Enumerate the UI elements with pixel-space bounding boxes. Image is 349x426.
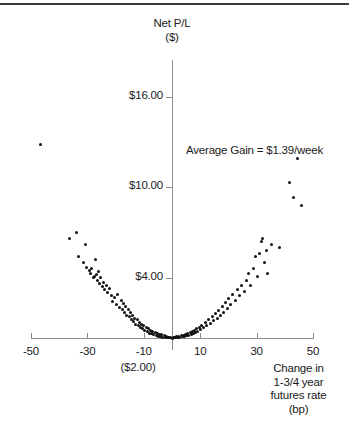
y-tick-label: $16.00 [99, 89, 163, 101]
data-point [116, 293, 119, 296]
data-point [105, 284, 108, 287]
data-point [214, 312, 217, 315]
data-point [211, 315, 214, 318]
data-point [240, 284, 243, 287]
data-point [296, 157, 299, 160]
data-point [84, 243, 87, 246]
data-point [39, 143, 42, 146]
data-point [209, 322, 212, 325]
y-axis-line [172, 60, 173, 350]
data-point [270, 243, 273, 246]
data-point [222, 311, 225, 314]
x-axis-title-line3: futures rate [248, 389, 349, 403]
data-point [238, 294, 241, 297]
data-point [252, 267, 255, 270]
data-point [263, 261, 266, 264]
x-tick-mark [257, 333, 258, 339]
x-tick-label: 50 [293, 345, 333, 357]
data-point [108, 287, 111, 290]
average-gain-annotation: Average Gain = $1.39/week [186, 144, 323, 156]
data-point [94, 258, 97, 261]
x-tick-mark [200, 333, 201, 339]
data-point [111, 300, 114, 303]
data-point [113, 296, 116, 299]
x-axis-title-line1: Change in [248, 362, 349, 376]
data-point [106, 291, 109, 294]
data-point [278, 246, 281, 249]
data-point [292, 196, 295, 199]
y-tick-label: $4.00 [99, 270, 163, 282]
data-point [245, 279, 248, 282]
x-tick-mark [31, 333, 32, 339]
y-axis-title-line1: Net P/L [112, 16, 232, 30]
data-point [234, 299, 237, 302]
x-tick-label: -50 [11, 345, 51, 357]
data-point [75, 231, 78, 234]
data-point [95, 273, 98, 276]
y-tick-label: $10.00 [99, 179, 163, 191]
data-point [221, 305, 224, 308]
data-point [231, 293, 234, 296]
data-point [229, 303, 232, 306]
data-point [82, 261, 85, 264]
y-origin-label: ($2.00) [108, 361, 168, 373]
data-point [236, 288, 239, 291]
y-axis-title-line2: ($) [112, 30, 232, 44]
scatter-chart: Net P/L ($) Average Gain = $1.39/week ($… [0, 0, 349, 426]
data-point [266, 272, 269, 275]
data-point [207, 318, 210, 321]
y-tick-mark [166, 278, 173, 279]
data-point [216, 317, 219, 320]
data-point [217, 309, 220, 312]
data-point [243, 290, 246, 293]
x-tick-mark [87, 333, 88, 339]
data-point [199, 328, 202, 331]
x-tick-label: 30 [237, 345, 277, 357]
data-point [300, 204, 303, 207]
data-point [102, 281, 105, 284]
data-point [254, 255, 257, 258]
data-point [227, 297, 230, 300]
y-tick-mark [166, 187, 173, 188]
data-point [90, 267, 93, 270]
data-point [212, 319, 215, 322]
x-tick-label: -30 [67, 345, 107, 357]
x-axis-title: Change in 1-3/4 year futures rate (bp) [248, 362, 349, 416]
x-tick-mark [313, 333, 314, 339]
data-point [260, 240, 263, 243]
x-axis-title-line4: (bp) [248, 403, 349, 417]
data-point [256, 275, 259, 278]
data-point [77, 255, 80, 258]
data-point [226, 307, 229, 310]
y-axis-title: Net P/L ($) [112, 16, 232, 44]
x-axis-title-line2: 1-3/4 year [248, 376, 349, 390]
x-tick-mark [144, 333, 145, 339]
data-point [89, 272, 92, 275]
x-tick-label: -10 [124, 345, 164, 357]
y-tick-mark [166, 97, 173, 98]
data-point [261, 237, 264, 240]
data-point [258, 252, 261, 255]
data-point [247, 272, 250, 275]
data-point [224, 301, 227, 304]
x-tick-label: 10 [180, 345, 220, 357]
data-point [219, 314, 222, 317]
data-point [265, 249, 268, 252]
data-point [68, 237, 71, 240]
data-point [249, 284, 252, 287]
data-point [205, 324, 208, 327]
data-point [288, 181, 291, 184]
